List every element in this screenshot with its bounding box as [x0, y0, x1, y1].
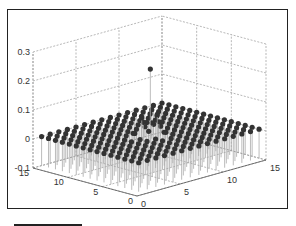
data-point-marker	[115, 155, 120, 160]
data-point-marker	[205, 141, 210, 146]
data-point-marker	[239, 131, 244, 136]
data-point-marker	[129, 158, 134, 163]
data-point-marker	[179, 148, 184, 153]
data-point-marker	[256, 127, 261, 132]
data-point-marker	[108, 153, 113, 158]
data-point-marker	[146, 129, 151, 134]
data-point-marker	[122, 156, 127, 161]
data-point-marker	[170, 151, 175, 156]
data-point-marker	[39, 134, 44, 139]
data-point-marker	[101, 151, 106, 156]
tick-label: 5	[184, 187, 189, 197]
data-point-marker	[155, 112, 160, 117]
data-point-marker	[248, 129, 253, 134]
data-point-marker	[222, 136, 227, 141]
data-point-marker	[131, 131, 136, 136]
data-point-marker	[60, 140, 65, 145]
data-point-marker	[94, 149, 99, 154]
data-point-marker	[136, 160, 141, 165]
tick-label: 0	[128, 196, 133, 206]
data-point-marker	[162, 130, 167, 135]
grid-lines	[33, 16, 266, 196]
data-point-marker	[139, 115, 144, 120]
stem3-plot: -0.100.10.20.3051015051015	[0, 0, 296, 226]
data-point-marker	[74, 143, 79, 148]
stems	[39, 66, 262, 191]
data-point-marker	[88, 147, 93, 152]
data-point-marker	[153, 155, 158, 160]
data-point-marker	[162, 153, 167, 158]
data-point-marker	[213, 139, 218, 144]
data-point-marker	[231, 134, 236, 139]
tick-label: 15	[19, 168, 29, 178]
data-point-marker	[145, 158, 150, 163]
data-point-marker	[46, 136, 51, 141]
tick-label: 15	[270, 163, 280, 173]
data-point-marker	[148, 66, 153, 71]
tick-label: 0	[25, 134, 30, 144]
data-point-marker	[53, 138, 58, 143]
tick-label: 10	[54, 177, 64, 187]
data-point-marker	[196, 143, 201, 148]
tick-label: 0.1	[17, 105, 30, 115]
data-point-marker	[188, 146, 193, 151]
tick-label: 0	[141, 199, 146, 209]
tick-label: 0.3	[17, 47, 30, 57]
tick-label: 10	[227, 175, 237, 185]
tick-label: 0.2	[17, 76, 30, 86]
data-point-marker	[81, 145, 86, 150]
data-point-marker	[67, 141, 72, 146]
tick-label: 5	[93, 187, 98, 197]
